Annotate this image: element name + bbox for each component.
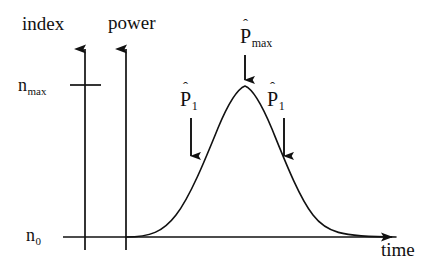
pmax-subscript: max	[252, 36, 273, 50]
index-axis-label: index	[22, 14, 64, 33]
n-zero-symbol: n	[26, 225, 35, 245]
p1-left-label: ˆP 1	[180, 89, 197, 109]
p1-left-symbol-wrap: ˆP	[180, 89, 191, 109]
power-curve	[126, 86, 396, 237]
diagram-canvas	[0, 0, 436, 267]
n-zero-subscript: 0	[36, 235, 42, 247]
p1-right-hat-accent: ˆ	[270, 80, 275, 95]
p1-right-label: ˆP 1	[267, 89, 284, 109]
n-max-subscript: max	[28, 85, 47, 97]
pmax-hat-accent: ˆ	[243, 17, 248, 32]
n-max-tick-label: nmax	[18, 76, 46, 94]
power-vs-time-diagram: index power time nmax n0 ˆP 1 ˆP max ˆP …	[0, 0, 436, 267]
pmax-symbol-wrap: ˆP	[240, 26, 251, 46]
pmax-label: ˆP max	[240, 26, 272, 46]
power-axis-label: power	[108, 13, 155, 32]
p1-left-subscript: 1	[192, 99, 198, 113]
n-zero-tick-label: n0	[26, 226, 41, 244]
time-axis-label: time	[381, 240, 415, 259]
p1-left-hat-accent: ˆ	[183, 80, 188, 95]
p1-right-symbol-wrap: ˆP	[267, 89, 278, 109]
p1-right-subscript: 1	[279, 99, 285, 113]
n-max-symbol: n	[18, 75, 27, 95]
